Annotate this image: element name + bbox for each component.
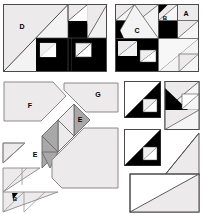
unit-d-bottom-right [72, 38, 108, 72]
label-f: F [28, 102, 33, 109]
unit-right-5 [130, 174, 199, 212]
unit-right-4 [164, 133, 199, 176]
panel-d: D [4, 5, 108, 72]
label-c: C [134, 27, 139, 34]
unit-right-2 [165, 82, 199, 130]
panel-c: C B A [116, 5, 199, 72]
label-d: D [19, 23, 24, 30]
panel-units-right [125, 82, 200, 213]
label-a: A [183, 10, 188, 17]
piece-f [4, 82, 66, 121]
unit-d-topright [68, 5, 107, 39]
unit-d-bottom-left [36, 38, 72, 72]
unit-b-top [159, 5, 178, 21]
unit-right-1 [125, 82, 161, 118]
unit-right-3 [125, 130, 161, 166]
label-g: G [95, 91, 101, 98]
label-b-top: B [163, 15, 168, 21]
panel-exploded: F G E E [3, 82, 118, 212]
piece-strip-upper [3, 168, 40, 192]
label-e-1: E [78, 116, 83, 123]
label-e-2: E [33, 151, 38, 158]
assembly-diagram: D [0, 0, 202, 214]
piece-strip-lower [3, 192, 58, 212]
figure-canvas: D [0, 0, 202, 214]
label-b-bottom: B [13, 196, 18, 202]
